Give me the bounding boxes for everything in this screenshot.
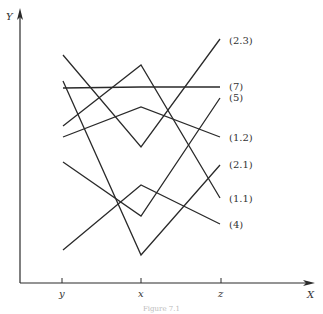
y-axis-label: Y: [6, 11, 14, 22]
figure-caption: Figure 7.1: [143, 305, 180, 313]
series-label: (1.2): [229, 132, 253, 143]
series-line: [63, 98, 220, 216]
series-line: [63, 39, 220, 147]
series-label: (2.1): [229, 159, 253, 170]
tick-label: y: [58, 288, 65, 299]
series-label: (4): [229, 219, 243, 230]
line-series: (2.3)(7)(5)(1.2)(2.1)(1.1)(4): [63, 35, 253, 255]
series-line: [63, 185, 220, 250]
series-label: (1.1): [229, 193, 253, 204]
tick-label: x: [138, 288, 144, 299]
x-axis-label: X: [306, 289, 315, 300]
series-label: (5): [229, 92, 243, 103]
x-axis-ticks: yxz: [58, 278, 224, 299]
series-label: (7): [229, 81, 243, 92]
y-axis: Y: [6, 8, 23, 283]
series-line: [63, 87, 220, 88]
tick-label: z: [217, 288, 224, 299]
series-label: (2.3): [229, 35, 253, 46]
figure-diagram: Y X yxz (2.3)(7)(5)(1.2)(2.1)(1.1)(4) Fi…: [0, 0, 323, 314]
